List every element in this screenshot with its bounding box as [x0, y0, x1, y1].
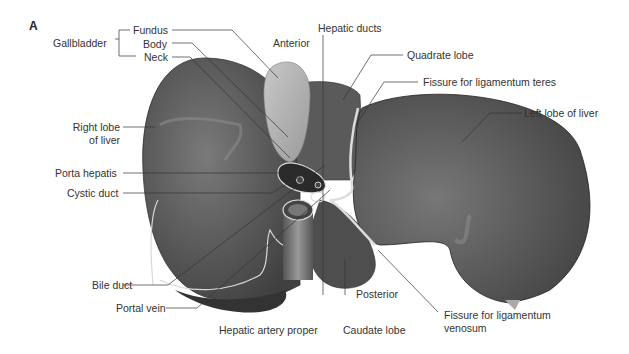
label-neck: Neck: [144, 51, 168, 63]
label-porta-hepatis: Porta hepatis: [55, 167, 117, 179]
label-fissure-ligamentum-venosum-line2: venosum: [444, 322, 487, 334]
label-posterior: Posterior: [356, 288, 398, 300]
label-quadrate-lobe: Quadrate lobe: [407, 49, 474, 61]
label-fissure-ligamentum-teres: Fissure for ligamentum teres: [423, 76, 556, 88]
label-left-lobe: Left lobe of liver: [524, 107, 598, 119]
left-lobe-of-liver: [353, 94, 590, 310]
label-body: Body: [143, 38, 167, 50]
label-caudate-lobe: Caudate lobe: [343, 324, 405, 336]
panel-letter: A: [29, 19, 38, 33]
label-anterior: Anterior: [273, 37, 310, 49]
label-gallbladder: Gallbladder: [53, 37, 107, 49]
label-fundus: Fundus: [133, 24, 168, 36]
label-right-lobe-line2: of liver: [60, 134, 120, 146]
label-cystic-duct: Cystic duct: [67, 187, 118, 199]
label-fissure-ligamentum-venosum-line1: Fissure for ligamentum: [444, 309, 551, 321]
label-hepatic-artery-proper: Hepatic artery proper: [219, 324, 318, 336]
inferior-vena-cava: [283, 200, 313, 280]
label-right-lobe-line1: Right lobe: [60, 121, 120, 133]
label-hepatic-ducts: Hepatic ducts: [318, 22, 382, 34]
label-bile-duct: Bile duct: [92, 279, 132, 291]
label-portal-vein: Portal vein: [116, 302, 166, 314]
